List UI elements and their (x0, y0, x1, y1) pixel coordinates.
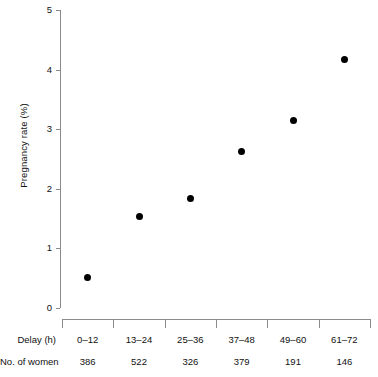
y-tick-label: 3 (36, 124, 52, 134)
table-column-separator (165, 319, 166, 328)
table-cell-women: 386 (62, 357, 113, 367)
table-column-separator (370, 319, 371, 328)
table-column-separator (216, 319, 217, 328)
data-point (84, 274, 91, 281)
table-column-separator (113, 319, 114, 328)
y-axis-line (60, 10, 61, 308)
table-cell-delay: 13–24 (113, 335, 164, 345)
y-tick-mark (56, 248, 60, 249)
pregnancy-rate-figure: Pregnancy rate (%) 012345 Delay (h) No. … (0, 0, 378, 377)
y-tick-label: 4 (36, 65, 52, 75)
y-tick-mark (56, 129, 60, 130)
y-tick-label: 0 (36, 303, 52, 313)
table-cell-delay: 49–60 (267, 335, 318, 345)
y-tick-label: 5 (36, 5, 52, 15)
table-row-label-women: No. of women (0, 357, 56, 367)
table-cell-delay: 0–12 (62, 335, 113, 345)
table-cell-delay: 61–72 (319, 335, 370, 345)
data-point (238, 148, 245, 155)
table-column-separator (267, 319, 268, 328)
table-column-separator (319, 319, 320, 328)
table-row-label-delay: Delay (h) (0, 335, 56, 345)
y-tick-label: 1 (36, 243, 52, 253)
table-column-separator (62, 319, 63, 328)
table-cell-delay: 25–36 (165, 335, 216, 345)
table-cell-women: 522 (113, 357, 164, 367)
table-cell-women: 326 (165, 357, 216, 367)
data-point (136, 213, 143, 220)
y-tick-mark (56, 189, 60, 190)
data-table: Delay (h) No. of women 0–1213–2425–3637–… (0, 318, 378, 377)
data-point (290, 117, 297, 124)
y-tick-mark (56, 10, 60, 11)
data-point (187, 195, 194, 202)
table-cell-women: 379 (216, 357, 267, 367)
table-cell-delay: 37–48 (216, 335, 267, 345)
table-cell-women: 146 (319, 357, 370, 367)
data-point (341, 56, 348, 63)
y-axis-title: Pregnancy rate (%) (18, 56, 29, 236)
scatter-plot: Pregnancy rate (%) 012345 (0, 0, 378, 318)
y-tick-mark (56, 70, 60, 71)
y-tick-mark (56, 308, 60, 309)
y-tick-label: 2 (36, 184, 52, 194)
table-cell-women: 191 (267, 357, 318, 367)
